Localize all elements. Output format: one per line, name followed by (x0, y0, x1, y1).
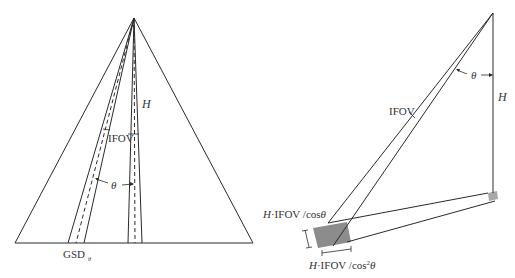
right-height-label: H (497, 90, 508, 104)
swath-top-edge (328, 193, 488, 223)
oblique-strip-centerline (76, 18, 134, 243)
left-theta-label: θ (111, 179, 117, 191)
left-height-label: H (141, 97, 152, 111)
cross-track-dimension (302, 230, 312, 248)
right-arrowhead-left (456, 69, 460, 72)
along-track-label: H·IFOV /cos2θ (308, 259, 376, 271)
right-diagram (302, 13, 498, 256)
right-theta-label: θ (471, 69, 477, 81)
right-arrowhead-right (489, 73, 493, 77)
right-ifov-label: IFOV (389, 105, 415, 117)
oblique-strip-right-edge (84, 18, 134, 243)
swath-bottom-edge (347, 201, 495, 242)
slant-strip-inner-edge (333, 13, 493, 246)
diagram-canvas: H IFOV θ GSD θ (0, 0, 515, 278)
left-diagram (15, 18, 253, 243)
arrowhead-left (95, 178, 99, 181)
slant-strip-outer-edge (328, 13, 493, 223)
gsd-label-subscript: θ (88, 256, 91, 262)
off-nadir-footprint (313, 222, 351, 248)
oblique-strip-left-edge (68, 18, 134, 243)
cross-track-label: H·IFOV /cosθ (262, 208, 327, 220)
along-track-dimension (322, 246, 351, 256)
cross-track-text: ·IFOV /cos (271, 208, 321, 220)
gsd-label: GSD θ (63, 248, 91, 262)
gsd-label-main: GSD (63, 248, 85, 260)
left-ifov-label: IFOV (108, 132, 134, 144)
arrowhead-right (130, 182, 134, 186)
nadir-strip-left-edge (128, 18, 134, 243)
